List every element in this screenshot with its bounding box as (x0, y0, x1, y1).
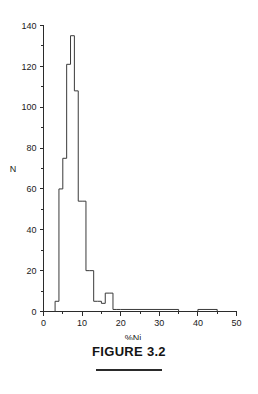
histogram-plot: 02040608010012014001020304050%NiN (0, 0, 258, 340)
figure-caption: FIGURE 3.2 (0, 344, 258, 360)
x-tick-label: 10 (77, 318, 87, 328)
axes-group (44, 26, 237, 312)
x-axis-title: %Ni (125, 333, 142, 341)
y-tick-label: 140 (21, 21, 36, 31)
x-tick-label: 40 (193, 318, 203, 328)
tick-group (40, 26, 237, 316)
y-axis-title: N (10, 164, 17, 174)
y-tick-label: 80 (26, 143, 36, 153)
y-tick-label: 120 (21, 62, 36, 72)
y-tick-label: 0 (31, 307, 36, 317)
x-tick-label: 30 (154, 318, 164, 328)
x-tick-label: 50 (231, 318, 241, 328)
y-tick-label: 60 (26, 184, 36, 194)
figure-container: 02040608010012014001020304050%NiN FIGURE… (0, 0, 258, 394)
x-tick-label: 20 (116, 318, 126, 328)
y-tick-label: 40 (26, 225, 36, 235)
y-tick-label: 20 (26, 266, 36, 276)
histogram-steps (55, 36, 217, 312)
figure-caption-block: FIGURE 3.2 (0, 344, 258, 371)
tick-label-group: 02040608010012014001020304050%NiN (10, 21, 242, 340)
x-tick-label: 0 (41, 318, 46, 328)
histogram-outline-group (55, 36, 217, 312)
histogram-svg: 02040608010012014001020304050%NiN (0, 0, 258, 340)
y-tick-label: 100 (21, 102, 36, 112)
caption-rule (96, 369, 162, 371)
